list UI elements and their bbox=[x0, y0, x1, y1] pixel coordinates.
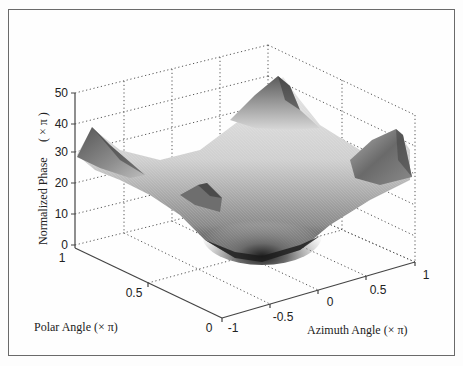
svg-text:0.5: 0.5 bbox=[370, 283, 387, 297]
z-tick-labels: 50 40 30 20 10 0 bbox=[55, 86, 69, 252]
svg-text:0: 0 bbox=[206, 321, 213, 335]
svg-text:( × π ): ( × π ) bbox=[36, 112, 50, 142]
surface-plot: 50 40 30 20 10 0 1 0.5 0 -1 -0.5 0 0.5 1… bbox=[0, 0, 463, 366]
svg-text:20: 20 bbox=[55, 176, 69, 190]
svg-text:-0.5: -0.5 bbox=[273, 310, 294, 324]
svg-text:1: 1 bbox=[59, 251, 66, 265]
svg-text:-1: -1 bbox=[228, 321, 239, 335]
z-axis-label: Normalized Phase ( × π ) bbox=[36, 112, 50, 245]
svg-text:40: 40 bbox=[55, 117, 69, 131]
polar-axis-label: Polar Angle (× π) bbox=[34, 320, 118, 334]
svg-text:0.5: 0.5 bbox=[126, 286, 143, 300]
svg-text:0: 0 bbox=[327, 295, 334, 309]
svg-text:0: 0 bbox=[61, 238, 68, 252]
svg-text:50: 50 bbox=[55, 86, 69, 100]
phase-surface bbox=[77, 76, 412, 265]
svg-text:Normalized Phase: Normalized Phase bbox=[36, 157, 50, 245]
svg-text:10: 10 bbox=[55, 207, 69, 221]
svg-text:30: 30 bbox=[55, 145, 69, 159]
svg-text:1: 1 bbox=[423, 268, 430, 282]
azimuth-axis-label: Azimuth Angle (× π) bbox=[307, 323, 407, 337]
